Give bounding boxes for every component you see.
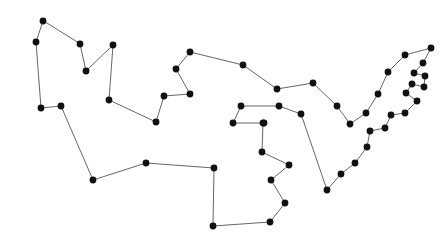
vertex-point	[187, 91, 194, 98]
vertex-point	[338, 171, 345, 178]
vertex-point	[363, 110, 370, 117]
vertex-point	[352, 160, 359, 167]
vertex-point	[230, 120, 237, 127]
vertex-point	[403, 90, 410, 97]
vertex-point	[38, 105, 45, 112]
vertex-point	[402, 110, 409, 117]
vertex-point	[298, 111, 305, 118]
vertex-point	[324, 187, 331, 194]
vertex-point	[268, 177, 275, 184]
vertex-point	[375, 91, 382, 98]
vertices-group	[33, 18, 435, 230]
vertex-point	[261, 120, 268, 127]
vertex-point	[153, 119, 160, 126]
vertex-point	[367, 128, 374, 135]
vertex-point	[211, 165, 218, 172]
vertex-point	[110, 42, 117, 49]
vertex-point	[347, 121, 354, 128]
vertex-point	[77, 41, 84, 48]
figure-canvas	[0, 0, 444, 244]
vertex-point	[90, 177, 97, 184]
vertex-point	[310, 80, 317, 87]
vertex-point	[238, 103, 245, 110]
vertex-point	[83, 68, 90, 75]
vertex-point	[409, 81, 416, 88]
vertex-point	[276, 103, 283, 110]
vertex-point	[267, 219, 274, 226]
vertex-point	[58, 103, 65, 110]
vertex-point	[187, 49, 194, 56]
vertex-point	[106, 97, 113, 104]
vertex-point	[411, 70, 418, 77]
vertex-point	[420, 60, 427, 67]
vertex-point	[282, 200, 289, 207]
vertex-point	[240, 62, 247, 69]
vertex-point	[286, 162, 293, 169]
vertex-point	[382, 125, 389, 132]
vertex-point	[274, 86, 281, 93]
vertex-point	[402, 52, 409, 59]
vertex-point	[33, 39, 40, 46]
vertex-point	[173, 66, 180, 73]
vertex-point	[388, 112, 395, 119]
polygon-outline-figure	[0, 0, 444, 244]
vertex-point	[143, 160, 150, 167]
vertex-point	[334, 103, 341, 110]
vertex-point	[422, 73, 429, 80]
vertex-point	[364, 144, 371, 151]
vertex-point	[40, 18, 47, 25]
vertex-point	[414, 98, 421, 105]
vertex-point	[428, 45, 435, 52]
vertex-point	[161, 93, 168, 100]
vertex-point	[421, 84, 428, 91]
vertex-point	[259, 149, 266, 156]
vertex-point	[385, 69, 392, 76]
vertex-point	[210, 223, 217, 230]
